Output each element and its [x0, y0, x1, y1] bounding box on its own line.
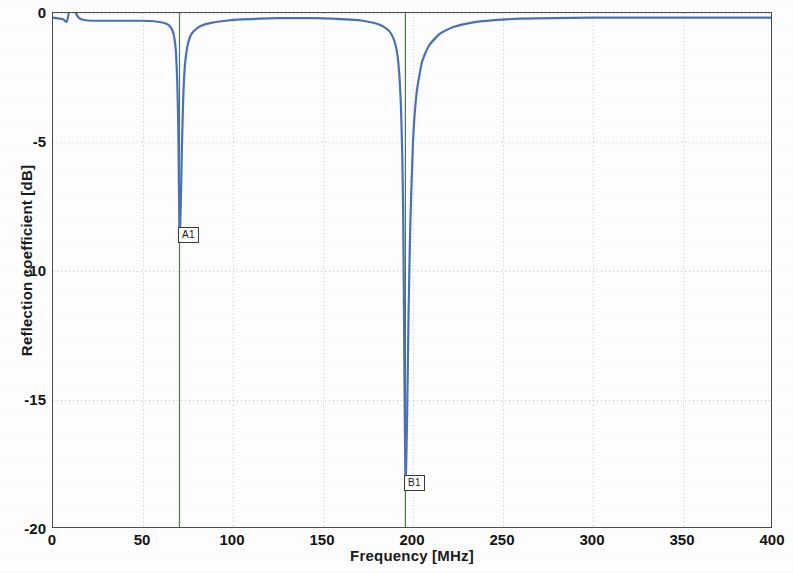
x-tick-label: 200 [382, 531, 442, 548]
reflection-coefficient-chart: Reflection coefficient [dB] 0-5-10-15-20… [0, 0, 793, 573]
data-series-curves [53, 13, 772, 476]
x-tick-label: 350 [652, 531, 712, 548]
x-tick-label: 250 [472, 531, 532, 548]
y-tick-label: -15 [4, 391, 46, 408]
series-line-0 [53, 13, 772, 476]
x-tick-label: 400 [742, 531, 793, 548]
x-axis-title: Frequency [MHz] [52, 547, 772, 564]
x-tick-label: 100 [202, 531, 262, 548]
y-tick-label: -10 [4, 262, 46, 279]
y-axis-tick-labels: 0-5-10-15-20 [0, 0, 46, 573]
marker-label-a1[interactable]: A1 [178, 227, 199, 243]
plot-canvas [53, 13, 772, 528]
plot-area [52, 12, 772, 528]
x-tick-label: 150 [292, 531, 352, 548]
y-tick-label: -5 [4, 133, 46, 150]
x-tick-label: 50 [112, 531, 172, 548]
gridlines [53, 13, 772, 528]
y-tick-label: 0 [4, 4, 46, 21]
x-tick-label: 300 [562, 531, 622, 548]
marker-label-b1[interactable]: B1 [404, 475, 425, 491]
marker-cursor-lines [180, 13, 406, 528]
x-tick-label: 0 [22, 531, 82, 548]
